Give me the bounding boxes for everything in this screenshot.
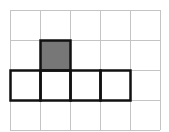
outlined-cell xyxy=(11,71,41,101)
shaded-cell xyxy=(40,40,70,70)
grid-diagram xyxy=(0,0,169,132)
outlined-cell xyxy=(41,71,71,101)
outlined-cell xyxy=(71,71,101,101)
outlined-cell xyxy=(101,71,131,101)
